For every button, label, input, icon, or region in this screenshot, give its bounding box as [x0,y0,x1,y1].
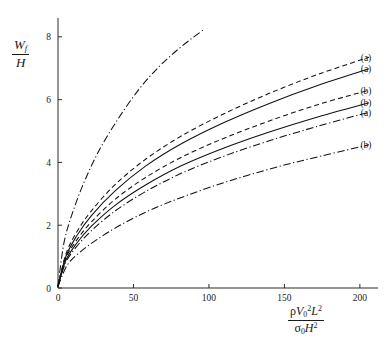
axis-group [58,18,378,288]
curve-end-label: (a) [361,53,372,64]
curve-end-labels-group: (a)(a)(b)(b)(a)(b) [360,53,371,152]
curve-curve-a-dashed-top [58,57,369,286]
x-label-L: L [311,304,318,318]
curve-steep-dashdot-unlabeled [58,29,204,286]
curve-curve-a-solid-top [58,69,369,287]
curve-curve-b-dashdot-low [58,145,369,287]
x-label-H-sup: 2 [314,321,318,330]
y-tick-label: 8 [46,32,51,42]
curve-curve-b-dashed [58,90,369,286]
x-tick-label: 100 [202,293,217,303]
curves-group [58,29,369,286]
curve-end-label: (b) [360,86,371,97]
curve-end-label: (a) [361,108,372,119]
curve-curve-b-solid [58,103,369,287]
y-tick-label: 6 [46,95,51,105]
tick-labels-group: 05010015020002468 [46,32,367,303]
curve-end-label: (a) [361,64,372,75]
tick-marks-group [58,37,360,288]
plot-svg: 05010015020002468 (a)(a)(b)(b)(a)(b) [0,0,387,344]
curve-curve-a-dashdot [58,112,369,286]
y-tick-label: 4 [46,158,51,168]
x-tick-label: 150 [277,293,292,303]
x-tick-label: 50 [129,293,139,303]
y-axis-label-denominator: H [12,54,29,69]
x-label-L-sup: 2 [318,304,322,313]
y-axis-label-numerator-var: W [14,37,25,52]
x-tick-label: 200 [353,293,368,303]
curve-end-label: (b) [360,140,371,151]
figure-container: 05010015020002468 (a)(a)(b)(b)(a)(b) Wf … [0,0,387,344]
x-tick-label: 0 [56,293,61,303]
x-axis-label: ρV02L2 σ0H2 [288,305,324,336]
y-tick-label: 2 [46,221,51,231]
x-label-H: H [305,321,314,335]
y-axis-label: Wf H [12,38,29,69]
y-axis-label-numerator-sub: f [25,43,27,53]
y-tick-label: 0 [46,284,51,294]
